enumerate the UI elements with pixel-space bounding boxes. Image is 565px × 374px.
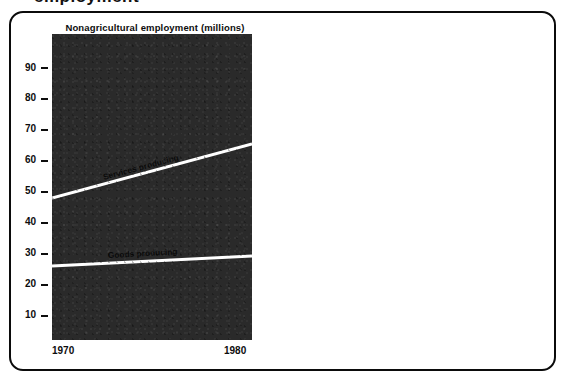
- plot-svg-left: Services producing Goods producing: [52, 34, 252, 340]
- y-tick-mark-left-70: [41, 129, 48, 131]
- y-tick-label-left-60: 60: [10, 154, 36, 165]
- y-tick-mark-left-50: [41, 191, 48, 193]
- chart-title-left: Nonagricultural employment (millions): [55, 22, 255, 33]
- y-tick-mark-left-30: [41, 253, 48, 255]
- y-tick-mark-left-90: [41, 67, 48, 69]
- y-tick-label-left-10: 10: [10, 309, 36, 320]
- y-tick-mark-left-10: [41, 315, 48, 317]
- y-tick-mark-left-60: [41, 160, 48, 162]
- plot-area-left: Services producing Goods producing: [52, 34, 252, 340]
- y-tick-label-left-80: 80: [10, 92, 36, 103]
- series-line-services-producing: [52, 144, 252, 198]
- series-label-goods-producing: Goods producing: [108, 247, 178, 260]
- x-tick-label-left-1970: 1970: [52, 345, 74, 356]
- y-tick-label-left-20: 20: [10, 278, 36, 289]
- x-tick-label-left-1980: 1980: [224, 345, 246, 356]
- y-tick-mark-left-20: [41, 284, 48, 286]
- y-tick-label-left-70: 70: [10, 123, 36, 134]
- y-tick-label-left-40: 40: [10, 216, 36, 227]
- y-tick-label-left-90: 90: [10, 62, 36, 73]
- y-tick-label-left-50: 50: [10, 185, 36, 196]
- bleed-text: employment: [34, 0, 139, 7]
- y-tick-label-left-30: 30: [10, 247, 36, 258]
- y-tick-mark-left-80: [41, 98, 48, 100]
- page-bleed-text-top: employment: [0, 0, 565, 9]
- y-tick-mark-left-40: [41, 222, 48, 224]
